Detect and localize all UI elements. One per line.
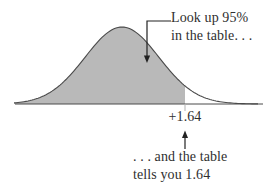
normal-curve-figure: Look up 95% in the table. . . +1.64 . . … (0, 0, 272, 192)
annotation-result-line1: . . . and the table (133, 148, 227, 166)
annotation-lookup-line1: Look up 95% (171, 9, 252, 27)
annotation-lookup: Look up 95% in the table. . . (171, 9, 252, 45)
shaded-area-95pct (14, 27, 185, 104)
annotation-result-line2: tells you 1.64 (133, 166, 227, 184)
result-arrowhead-up-icon (182, 131, 188, 139)
annotation-lookup-line2: in the table. . . (171, 27, 252, 45)
z-value-label: +1.64 (169, 108, 202, 126)
annotation-result: . . . and the table tells you 1.64 (133, 148, 227, 184)
